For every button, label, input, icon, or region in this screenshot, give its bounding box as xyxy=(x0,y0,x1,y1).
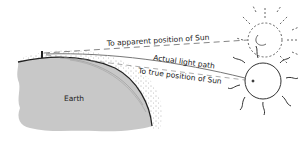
true-sun-icon xyxy=(228,46,298,115)
apparent-sun-icon xyxy=(236,6,299,63)
actual-light-path-label: Actual light path xyxy=(153,53,216,71)
earth-label: Earth xyxy=(64,94,84,103)
refraction-diagram: To apparent position of Sun Actual light… xyxy=(0,0,305,147)
observer-icon xyxy=(41,51,43,58)
